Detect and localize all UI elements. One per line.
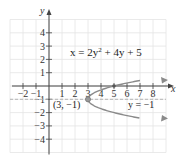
x-intercept-point	[112, 84, 116, 88]
y-tick-label: −2	[34, 107, 45, 118]
x-tick-label: 2	[73, 88, 78, 99]
y-tick-label: 4	[40, 27, 45, 38]
vertex-point	[85, 97, 90, 102]
y-tick-label: 1	[40, 67, 45, 78]
vertex-label: (3, −1)	[53, 99, 80, 111]
x-axis-label: x	[170, 83, 176, 94]
parabola-chart: −2−1123456784321−1−2−3−4 x y x = 2y2 + 4…	[0, 0, 186, 163]
x-tick-label: 7	[138, 88, 143, 99]
x-tick-label: 6	[125, 88, 130, 99]
y-tick-label: −3	[34, 120, 45, 131]
symmetry-line-label: y = −1	[128, 99, 154, 110]
x-tick-label: −2	[18, 88, 29, 99]
equation-label: x = 2y2 + 4y + 5	[70, 46, 142, 58]
x-tick-label: 1	[60, 88, 65, 99]
curve-arrow-upper-icon	[161, 77, 168, 84]
y-tick-label: 3	[40, 41, 45, 52]
x-tick-label: 5	[112, 88, 117, 99]
y-axis-label: y	[39, 5, 45, 16]
y-tick-label: −4	[34, 134, 45, 145]
y-tick-label: 2	[40, 54, 45, 65]
curve-arrow-lower-icon	[161, 115, 168, 122]
y-axis-arrow-icon	[47, 9, 52, 15]
x-tick-label: 8	[151, 88, 156, 99]
